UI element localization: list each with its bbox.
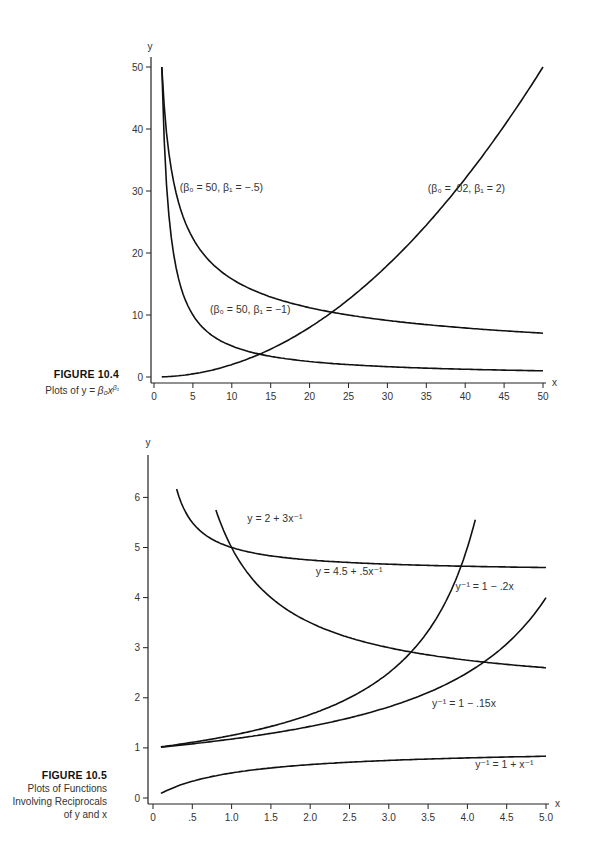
curve-label-2: (β₀ = 50, β₁ = −1) <box>210 303 290 315</box>
curve-4 <box>161 598 546 748</box>
curve-3 <box>162 67 543 377</box>
x-tick-label: 35 <box>421 391 433 402</box>
curve-2 <box>162 67 543 371</box>
x-tick-label: 25 <box>343 391 355 402</box>
curve-1 <box>162 67 543 333</box>
y-axis-label: y <box>146 437 151 448</box>
x-tick-label: 30 <box>382 391 394 402</box>
x-tick-label: 5 <box>190 391 196 402</box>
y-tick-label: 0 <box>137 372 143 383</box>
chart1-curves <box>162 67 543 377</box>
x-tick-label: 0 <box>151 391 157 402</box>
curve-3 <box>161 520 475 747</box>
curve-label-1: y = 2 + 3x⁻¹ <box>247 512 303 524</box>
curve-label-1: (β₀ = 50, β₁ = −.5) <box>180 181 263 193</box>
y-axis-label: y <box>148 41 153 52</box>
figure-10-5-number: FIGURE 10.5 <box>0 769 107 782</box>
y-tick-label: 4 <box>134 592 140 603</box>
figure-10-4-caption: FIGURE 10.4 Plots of y = β₀xβ₁ <box>0 368 119 397</box>
y-tick-label: 40 <box>132 124 144 135</box>
x-tick-label: 1.5 <box>264 812 278 823</box>
figure-10-5-line-1: Plots of Functions <box>0 782 107 795</box>
y-tick-label: 30 <box>132 186 144 197</box>
curve-label-2: y = 4.5 + .5x⁻¹ <box>316 565 383 577</box>
y-tick-label: 6 <box>134 492 140 503</box>
chart2-curves <box>161 489 546 793</box>
figure-10-5-line-3: of y and x <box>0 808 107 821</box>
y-tick-label: 0 <box>134 793 140 804</box>
curve-label-3: y⁻¹ = 1 − .2x <box>456 580 515 592</box>
curve-2 <box>177 489 546 568</box>
x-axis-label: x <box>555 798 560 809</box>
x-tick-label: 45 <box>499 391 511 402</box>
chart1-curve-labels: (β₀ = 50, β₁ = −.5)(β₀ = 50, β₁ = −1)(β₀… <box>180 181 505 315</box>
x-tick-label: 15 <box>265 391 277 402</box>
figure-canvas: yx0102030405005101520253035404550 (β₀ = … <box>0 0 589 868</box>
x-axis-label: x <box>552 377 557 388</box>
x-tick-label: 1.0 <box>225 812 239 823</box>
x-tick-label: 2.0 <box>303 812 317 823</box>
y-tick-label: 20 <box>132 248 144 259</box>
chart1-axes: yx0102030405005101520253035404550 <box>132 41 557 402</box>
curve-label-3: (β₀ = .02, β₁ = 2) <box>428 182 505 194</box>
x-tick-label: 3.0 <box>382 812 396 823</box>
figure-10-5-caption: FIGURE 10.5 Plots of Functions Involving… <box>0 769 107 821</box>
y-tick-label: 2 <box>134 692 140 703</box>
figure-10-5-plot: yx01234560.51.01.52.02.53.03.54.04.55.0 … <box>134 437 560 823</box>
figure-10-4-plot: yx0102030405005101520253035404550 (β₀ = … <box>132 41 557 402</box>
curve-label-4: y⁻¹ = 1 − .15x <box>432 697 497 709</box>
y-tick-label: 5 <box>134 542 140 553</box>
x-tick-label: 3.5 <box>421 812 435 823</box>
y-tick-label: 50 <box>132 62 144 73</box>
x-tick-label: 20 <box>304 391 316 402</box>
x-tick-label: 40 <box>460 391 472 402</box>
x-tick-label: .5 <box>188 812 197 823</box>
x-tick-label: 2.5 <box>343 812 357 823</box>
y-tick-label: 1 <box>134 742 140 753</box>
figure-10-4-number: FIGURE 10.4 <box>0 368 119 381</box>
x-tick-label: 10 <box>226 391 238 402</box>
figure-10-5-line-2: Involving Reciprocals <box>0 795 107 808</box>
curve-label-5: y⁻¹ = 1 + x⁻¹ <box>475 758 534 770</box>
x-tick-label: 4.0 <box>460 812 474 823</box>
x-tick-label: 4.5 <box>500 812 514 823</box>
chart2-curve-labels: y = 2 + 3x⁻¹y = 4.5 + .5x⁻¹y⁻¹ = 1 − .2x… <box>247 512 534 769</box>
y-tick-label: 3 <box>134 642 140 653</box>
x-tick-label: 50 <box>537 391 549 402</box>
figure-10-4-description: Plots of y = β₀xβ₁ <box>0 381 119 397</box>
y-tick-label: 10 <box>132 310 144 321</box>
x-tick-label: 5.0 <box>539 812 553 823</box>
x-tick-label: 0 <box>150 812 156 823</box>
